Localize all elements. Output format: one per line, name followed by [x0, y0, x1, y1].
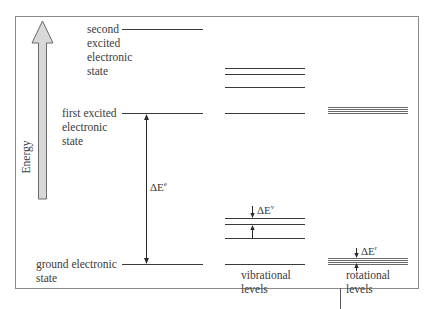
delta-e-electronic-label: ΔEe [150, 180, 167, 193]
energy-level-diagram: Energy second excited electronic state f… [0, 0, 432, 309]
delta-e-vibrational-arrows [250, 206, 254, 238]
first-state-label-3: state [62, 135, 83, 147]
vibrational-levels-lower [225, 219, 305, 265]
vibrational-levels-label-2: levels [241, 283, 268, 295]
energy-arrow-icon [32, 21, 53, 199]
vibrational-levels-label-1: vibrational [241, 269, 291, 281]
second-state-label-3: electronic [87, 51, 132, 63]
rotational-levels-lower [328, 259, 408, 265]
rotational-levels-upper [328, 108, 408, 114]
energy-axis-label: Energy [20, 140, 33, 173]
second-state-label-4: state [87, 65, 108, 77]
ground-electronic-state: ground electronic state [36, 258, 203, 284]
delta-e-rotational-label: ΔEr [361, 244, 378, 257]
ground-state-label-1: ground electronic [36, 258, 117, 271]
rotational-levels-label-1: rotational [346, 269, 390, 281]
second-state-label-1: second [87, 23, 119, 35]
vibrational-levels-upper [225, 69, 305, 114]
delta-e-vibrational-label: ΔEv [257, 203, 275, 216]
rotational-levels-label-2: levels [346, 283, 373, 295]
first-state-label-2: electronic [62, 121, 107, 133]
delta-e-electronic-arrow [144, 114, 149, 264]
first-excited-state: first excited electronic state [62, 107, 203, 147]
delta-e-rotational-arrows [354, 248, 358, 271]
second-excited-state: second excited electronic state [87, 23, 203, 77]
ground-state-label-2: state [36, 272, 57, 284]
first-state-label-1: first excited [62, 107, 117, 119]
second-state-label-2: excited [87, 37, 120, 49]
